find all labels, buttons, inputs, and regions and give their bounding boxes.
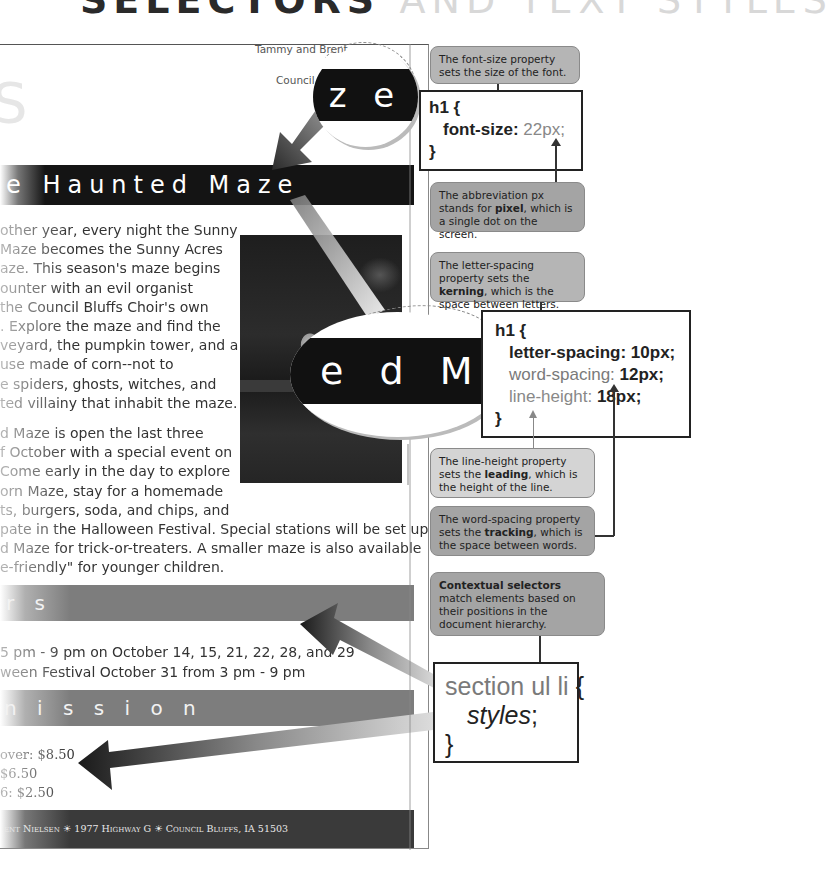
callout-contextual-selectors: Contextual selectors match elements base… (430, 572, 605, 636)
code-value: 10px; (626, 343, 675, 362)
code-block-contextual: section ul li { styles; } (433, 662, 579, 763)
callout-bold: tracking (484, 526, 533, 538)
hours-list: 5 pm - 9 pm on October 14, 15, 21, 22, 2… (0, 642, 355, 682)
hours-heading: r s (6, 591, 52, 615)
admission-line: over: $8.50 (0, 745, 75, 764)
main-banner-text: e Haunted Maze (6, 171, 299, 199)
magnified-text: z e (313, 69, 418, 121)
callout-text: The letter-spacing property sets the (439, 259, 534, 284)
arrow-up-icon (609, 384, 619, 392)
footer-bar: ent Nielsen ☀ 1977 Highway G ☀ Council B… (0, 810, 414, 848)
text-line: . Explore the maze and find the (0, 317, 238, 336)
main-banner: e Haunted Maze (0, 165, 414, 205)
callout-bold: kerning (439, 285, 484, 297)
admission-line: $6.50 (0, 764, 75, 783)
code-property: word-spacing: (509, 365, 615, 384)
code-selector: h1 { (429, 97, 573, 119)
code-value: 22px; (519, 120, 565, 139)
magnifier-top: z e (313, 47, 418, 147)
code-selector: section ul li (445, 672, 576, 700)
callout-kerning: The letter-spacing property sets the ker… (430, 252, 585, 302)
text-line: ounter with an evil organist (0, 279, 238, 298)
text-line: orn Maze, stay for a homemade (0, 482, 446, 501)
pointer-line (613, 386, 615, 536)
arrow-up-icon (529, 410, 537, 418)
hours-heading-bar: r s (0, 585, 414, 621)
callout-text: The font-size property sets the size of … (439, 53, 566, 78)
code-value: 12px; (615, 365, 664, 384)
text-line: e spiders, ghosts, witches, and (0, 375, 238, 394)
pointer-line (595, 535, 614, 537)
callout-tracking: The word-spacing property sets the track… (430, 506, 595, 556)
callout-bold: Contextual selectors (439, 579, 561, 591)
page-title-light: AND TEXT STYLES (399, 0, 830, 22)
code-semicolon: ; (531, 701, 538, 729)
callout-text: match elements based on their positions … (439, 592, 576, 630)
text-line: veyard, the pumpkin tower, and a (0, 336, 238, 355)
text-line: d Maze for trick-or-treaters. A smaller … (0, 539, 446, 558)
code-block-font-size: h1 { font-size: 22px; } (419, 90, 583, 171)
text-line: pate in the Halloween Festival. Special … (0, 520, 446, 539)
footer-address: ent Nielsen ☀ 1977 Highway G ☀ Council B… (4, 823, 288, 834)
text-line: aze. This season's maze begins (0, 259, 238, 278)
code-property: font-size: (443, 120, 519, 139)
code-selector: h1 { (495, 320, 677, 342)
code-close: } (495, 408, 677, 430)
page-title: SELECTORS AND TEXT STYLES (80, 0, 830, 22)
admission-heading: n i s s i o n (4, 696, 203, 720)
ghost-glyph: S (0, 70, 28, 135)
magnified-text: e d M a (290, 338, 505, 404)
admission-line: 6: $2.50 (0, 783, 75, 802)
callout-bold: pixel (495, 202, 524, 214)
code-property: line-height: (509, 387, 592, 406)
hours-line: 5 pm - 9 pm on October 14, 15, 21, 22, 2… (0, 642, 355, 662)
admission-list: over: $8.50 $6.50 6: $2.50 (0, 745, 75, 802)
callout-font-size: The font-size property sets the size of … (430, 46, 580, 84)
paragraph-1: other year, every night the Sunny Maze b… (0, 221, 238, 413)
code-brace: { (576, 672, 584, 700)
callout-pixel: The abbreviation px stands for pixel, wh… (430, 182, 585, 232)
text-line: use made of corn--not to (0, 355, 238, 374)
admission-heading-bar: n i s s i o n (0, 690, 414, 726)
text-line: Maze becomes the Sunny Acres (0, 240, 238, 259)
callout-leading: The line-height property sets the leadin… (430, 448, 595, 498)
text-line: e-friendly" for younger children. (0, 558, 446, 577)
pointer-line (555, 140, 557, 182)
code-close: } (445, 730, 567, 759)
magnifier-middle: e d M a (290, 312, 505, 437)
page-title-bold: SELECTORS (80, 0, 380, 22)
code-property: letter-spacing: (509, 343, 626, 362)
arrow-up-icon (551, 138, 561, 146)
hours-line: ween Festival October 31 from 3 pm - 9 p… (0, 662, 355, 682)
code-block-spacing: h1 { letter-spacing: 10px; word-spacing:… (481, 310, 691, 438)
callout-bold: leading (484, 468, 528, 480)
text-line: ts, burgers, soda, and chips, and (0, 501, 446, 520)
text-line: other year, every night the Sunny (0, 221, 238, 240)
text-line: the Council Bluffs Choir's own (0, 298, 238, 317)
code-placeholder: styles (467, 701, 531, 729)
text-line: ted villainy that inhabit the maze. (0, 394, 238, 413)
